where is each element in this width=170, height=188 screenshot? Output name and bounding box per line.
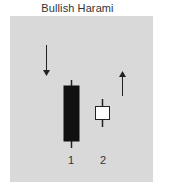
candle-2-label: 2	[100, 154, 106, 166]
bearish-candle	[64, 80, 79, 148]
down-arrow-icon	[43, 45, 50, 76]
up-arrow-icon	[119, 71, 126, 96]
candlestick-diagram	[0, 0, 170, 188]
candle-1-label: 1	[68, 154, 74, 166]
bullish-candle	[96, 99, 110, 127]
